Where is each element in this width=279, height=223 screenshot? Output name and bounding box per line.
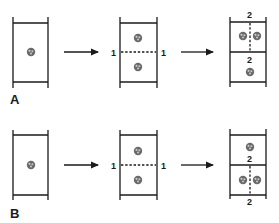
nucleus-icon — [134, 176, 142, 184]
division-label-left: 1 — [111, 161, 116, 171]
row-b-cell-second-division: 2 2 — [230, 129, 266, 207]
nucleus-icon — [246, 68, 254, 76]
nucleus-icon — [246, 143, 254, 151]
division-label-left: 1 — [111, 48, 116, 58]
division-label-right: 1 — [161, 48, 166, 58]
row-b: B 1 1 2 2 — [10, 129, 266, 221]
row-label-b: B — [10, 206, 19, 221]
nucleus-icon — [134, 63, 142, 71]
row-label-a: A — [10, 92, 20, 107]
nucleus-icon — [239, 32, 247, 40]
nucleus-icon — [253, 32, 261, 40]
division-label-mid: 2 — [247, 55, 252, 65]
division-label-top: 2 — [247, 10, 252, 20]
nucleus-icon — [27, 161, 35, 169]
row-b-cell-first-division: 1 1 — [111, 130, 166, 200]
nucleus-icon — [253, 176, 261, 184]
nucleus-icon — [239, 176, 247, 184]
division-label-mid: 2 — [247, 154, 252, 164]
division-label-right: 1 — [161, 161, 166, 171]
division-label-bottom: 2 — [247, 197, 252, 207]
row-a-cell-first-division: 1 1 — [111, 17, 166, 88]
row-b-cell-initial — [13, 130, 48, 200]
nucleus-icon — [134, 147, 142, 155]
nucleus-icon — [27, 48, 35, 56]
row-a-cell-second-division: 2 2 — [230, 10, 266, 87]
cell-division-diagram: A 1 1 2 2 — [0, 0, 279, 223]
nucleus-icon — [134, 34, 142, 42]
row-a-cell-initial — [13, 17, 48, 88]
row-a: A 1 1 2 2 — [10, 10, 266, 107]
